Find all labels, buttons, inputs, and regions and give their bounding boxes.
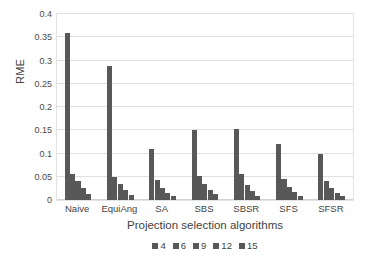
legend-swatch-icon (239, 243, 245, 249)
gridline (57, 60, 353, 61)
legend-item: 9 (193, 241, 206, 251)
legend-swatch-icon (152, 243, 158, 249)
plot-area (56, 13, 354, 201)
legend-label: 6 (181, 241, 186, 251)
y-axis-tick-label: 0.3 (6, 57, 52, 66)
gridline (57, 199, 353, 200)
y-axis-tick-label: 0 (6, 196, 52, 205)
gridlines (57, 14, 353, 200)
y-axis-tick-label: 0.2 (6, 103, 52, 112)
legend-item: 6 (173, 241, 186, 251)
legend-item: 4 (152, 241, 165, 251)
gridline (57, 36, 353, 37)
legend-swatch-icon (173, 243, 179, 249)
legend-label: 15 (247, 241, 258, 251)
legend-item: 15 (239, 241, 258, 251)
legend-label: 4 (160, 241, 165, 251)
y-axis-tick-label: 0.05 (6, 173, 52, 182)
gridline (57, 153, 353, 154)
x-axis-tick-label: EquiAng (98, 203, 140, 214)
bar-chart: RME 00.050.10.150.20.250.30.350.4 NaiveE… (0, 0, 375, 274)
y-axis-tick-label: 0.15 (6, 126, 52, 135)
y-axis-tick-label: 0.25 (6, 80, 52, 89)
gridline (57, 13, 353, 14)
legend-swatch-icon (213, 243, 219, 249)
legend-label: 12 (221, 241, 232, 251)
legend-item: 12 (213, 241, 232, 251)
gridline (57, 106, 353, 107)
chart-legend: 4691215 (56, 241, 354, 251)
gridline (57, 176, 353, 177)
x-axis-title: Projection selection algorithms (56, 219, 354, 231)
y-axis-tick-label: 0.1 (6, 150, 52, 159)
y-axis-tick-label: 0.35 (6, 33, 52, 42)
legend-label: 9 (201, 241, 206, 251)
x-axis-tick-label: SBS (183, 203, 225, 214)
x-axis-tick-label: SA (141, 203, 183, 214)
x-axis-tick-labels: NaiveEquiAngSASBSSBSRSFSSFSR (56, 203, 354, 217)
x-axis-tick-label: SFS (267, 203, 309, 214)
gridline (57, 129, 353, 130)
y-axis-tick-labels: 00.050.10.150.20.250.30.350.4 (0, 13, 52, 201)
legend-swatch-icon (193, 243, 199, 249)
gridline (57, 83, 353, 84)
x-axis-tick-label: Naive (56, 203, 98, 214)
x-axis-tick-label: SFSR (310, 203, 352, 214)
x-axis-tick-label: SBSR (225, 203, 267, 214)
y-axis-tick-label: 0.4 (6, 10, 52, 19)
